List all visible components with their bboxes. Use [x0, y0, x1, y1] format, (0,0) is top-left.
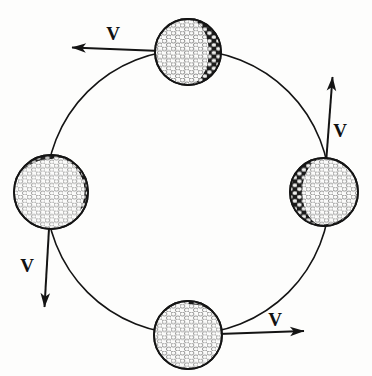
golf-ball-left: [14, 155, 90, 229]
figure-canvas: V V V V: [0, 0, 372, 376]
velocity-label-bottom: V: [268, 309, 282, 330]
velocity-label-top: V: [106, 23, 120, 44]
circular-motion-figure: V V V V: [0, 0, 372, 376]
velocity-label-right: V: [333, 120, 347, 141]
golf-ball-top: [155, 19, 221, 88]
golf-ball-bottom: [136, 300, 222, 369]
golf-ball-right: [290, 158, 358, 228]
velocity-label-left: V: [20, 255, 34, 276]
